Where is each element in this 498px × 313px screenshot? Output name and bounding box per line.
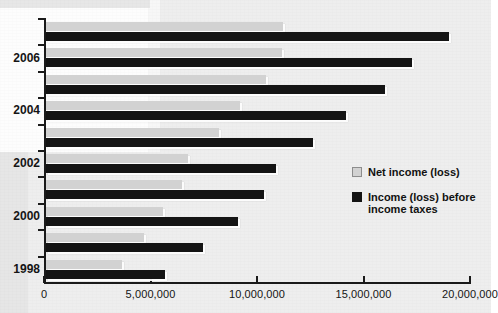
plot-area: [44, 18, 470, 282]
x-axis-tick-label: 20,000,000: [442, 288, 498, 300]
bar-net-income: [46, 75, 266, 84]
bar-net-income: [46, 48, 282, 57]
bar-income-before-taxes: [46, 164, 276, 173]
bar-income-before-taxes: [46, 217, 238, 226]
legend-item-income-before-taxes: Income (loss) before income taxes: [352, 191, 488, 216]
bar-net-income: [46, 207, 163, 216]
legend-label-net-income: Net income (loss): [368, 166, 460, 179]
legend-item-net-income: Net income (loss): [352, 166, 488, 179]
bar-income-before-taxes: [46, 111, 346, 120]
y-axis-category-label: 1998: [0, 262, 40, 276]
background-strip-top: [0, 0, 150, 8]
bar-net-income: [46, 101, 240, 110]
legend-swatch-net-income-icon: [352, 167, 362, 177]
chart-legend: Net income (loss) Income (loss) before i…: [352, 166, 488, 228]
y-axis-category-label: 2002: [0, 156, 40, 170]
x-axis-tick-label: 0: [41, 288, 47, 300]
x-axis-tick-label: 5,000,000: [126, 288, 176, 300]
bar-net-income: [46, 233, 144, 242]
bar-income-before-taxes: [46, 58, 412, 67]
legend-swatch-income-before-taxes-icon: [352, 192, 362, 202]
bar-net-income: [46, 260, 122, 269]
y-axis-category-label: 2004: [0, 103, 40, 117]
bar-net-income: [46, 180, 182, 189]
x-axis-tick-label: 10,000,000: [229, 288, 285, 300]
y-axis-category-label: 2000: [0, 209, 40, 223]
bar-income-before-taxes: [46, 190, 264, 199]
bar-net-income: [46, 22, 283, 31]
bar-income-before-taxes: [46, 85, 385, 94]
bar-net-income: [46, 128, 219, 137]
bar-income-before-taxes: [46, 243, 203, 252]
legend-label-income-before-taxes: Income (loss) before income taxes: [368, 191, 488, 216]
bar-income-before-taxes: [46, 270, 165, 279]
background-shade-bottom-left: [0, 152, 28, 313]
y-axis-category-label: 2006: [0, 51, 40, 65]
bar-income-before-taxes: [46, 138, 313, 147]
bar-income-before-taxes: [46, 32, 449, 41]
bar-net-income: [46, 154, 188, 163]
x-axis-tick-label: 15,000,000: [335, 288, 391, 300]
